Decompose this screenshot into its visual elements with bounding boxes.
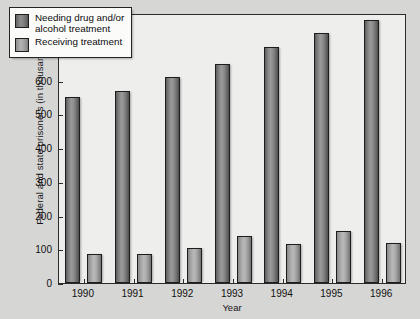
bar-group xyxy=(264,15,301,283)
legend-swatch-receiving-treatment xyxy=(15,38,29,52)
legend-swatch-needing-treatment xyxy=(15,14,29,28)
legend-item-receiving-treatment: Receiving treatment xyxy=(15,37,124,52)
x-tick-mark xyxy=(382,279,383,284)
y-tick-mark xyxy=(58,82,63,83)
bar-1993-series1 xyxy=(215,64,230,283)
y-tick-label-0: 0 xyxy=(24,279,52,289)
bar-1992-series1 xyxy=(165,77,180,283)
y-tick-label-300: 300 xyxy=(24,178,52,188)
x-tick-label-1994: 1994 xyxy=(257,288,307,299)
y-tick-mark xyxy=(58,284,63,285)
y-tick-mark xyxy=(58,183,63,184)
y-tick-mark xyxy=(58,149,63,150)
bar-1996-series1 xyxy=(364,20,379,283)
x-tick-mark xyxy=(233,279,234,284)
x-tick-label-1990: 1990 xyxy=(58,288,108,299)
y-tick-label-500: 500 xyxy=(24,110,52,120)
bar-1991-series2 xyxy=(137,254,152,283)
x-tick-mark xyxy=(283,279,284,284)
chart-legend: Needing drug and/or alcohol treatment Re… xyxy=(9,7,132,58)
bar-group xyxy=(215,15,252,283)
y-tick-mark xyxy=(58,115,63,116)
bar-1990-series1 xyxy=(65,97,80,283)
legend-label-needing-treatment: Needing drug and/or alcohol treatment xyxy=(35,13,124,34)
bar-1995-series1 xyxy=(314,33,329,283)
chart-figure: Federal and state prisoners (in thousand… xyxy=(0,0,420,319)
y-tick-label-400: 400 xyxy=(24,144,52,154)
bar-1991-series1 xyxy=(115,91,130,283)
bar-1994-series1 xyxy=(264,47,279,283)
x-tick-label-1995: 1995 xyxy=(306,288,356,299)
x-tick-mark xyxy=(332,279,333,284)
bar-1992-series2 xyxy=(187,248,202,283)
y-tick-label-200: 200 xyxy=(24,212,52,222)
y-tick-mark xyxy=(58,217,63,218)
x-axis-label: Year xyxy=(58,302,406,313)
x-tick-label-1992: 1992 xyxy=(157,288,207,299)
bar-1994-series2 xyxy=(286,244,301,283)
x-tick-label-1991: 1991 xyxy=(108,288,158,299)
y-tick-label-100: 100 xyxy=(24,245,52,255)
x-tick-mark xyxy=(134,279,135,284)
y-tick-mark xyxy=(58,250,63,251)
bar-group xyxy=(165,15,202,283)
bar-1993-series2 xyxy=(237,236,252,283)
legend-label-receiving-treatment: Receiving treatment xyxy=(35,37,122,48)
bar-group xyxy=(314,15,351,283)
legend-item-needing-treatment: Needing drug and/or alcohol treatment xyxy=(15,13,124,34)
bar-1995-series2 xyxy=(336,231,351,283)
x-tick-mark xyxy=(84,279,85,284)
bar-group xyxy=(364,15,401,283)
y-tick-label-600: 600 xyxy=(24,77,52,87)
x-tick-mark xyxy=(183,279,184,284)
bar-1996-series2 xyxy=(386,243,401,284)
x-tick-label-1993: 1993 xyxy=(207,288,257,299)
bar-1990-series2 xyxy=(87,254,102,283)
x-tick-label-1996: 1996 xyxy=(356,288,406,299)
